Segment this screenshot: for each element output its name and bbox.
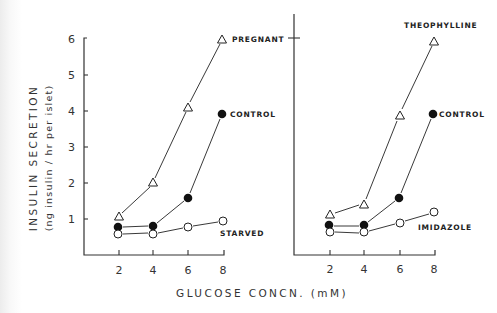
right-xtick-label: 6 [397, 263, 404, 276]
open-circle-marker [396, 219, 404, 227]
left-ytick-label: 5 [68, 69, 75, 82]
series-label-theophylline: THEOPHYLLINE [404, 21, 477, 30]
filled-circle-marker [429, 110, 438, 119]
series-imidazole: IMIDAZOLE [326, 208, 472, 236]
open-triangle-marker [430, 37, 439, 45]
series-control-left: CONTROL [114, 110, 276, 232]
right-panel: 2 4 6 8 THEOPHYLLINE CONTROL [288, 14, 485, 276]
series-label-control: CONTROL [230, 110, 276, 119]
series-starved: STARVED [114, 217, 264, 238]
left-ytick-label: 3 [68, 141, 75, 154]
right-xtick-label: 4 [361, 263, 368, 276]
series-label-starved: STARVED [220, 229, 264, 238]
open-circle-marker [114, 230, 122, 238]
filled-circle-marker [218, 110, 227, 119]
left-panel: 1 2 3 4 5 6 2 4 6 8 PREGNANT C [68, 33, 285, 277]
series-label-control: CONTROL [439, 110, 485, 119]
filled-circle-marker [149, 222, 158, 231]
open-circle-marker [326, 228, 334, 236]
right-xtick-label: 8 [431, 263, 438, 276]
open-circle-marker [430, 208, 438, 216]
series-theophylline: THEOPHYLLINE [326, 21, 478, 218]
left-xtick-label: 8 [220, 264, 227, 277]
left-xtick-label: 4 [150, 264, 157, 277]
open-circle-marker [360, 228, 368, 236]
series-pregnant: PREGNANT [115, 35, 285, 220]
y-axis-title-main: INSULIN SECRETION [27, 85, 39, 231]
series-control-right: CONTROL [325, 110, 485, 230]
open-circle-marker [219, 217, 227, 225]
chart-svg: INSULIN SECRETION (ng insulin / hr per i… [0, 0, 497, 313]
left-xtick-label: 2 [116, 264, 123, 277]
left-ytick-label: 1 [68, 213, 75, 226]
open-triangle-marker [184, 103, 193, 111]
left-ytick-label: 6 [68, 33, 75, 46]
y-axis-title-sub: (ng insulin / hr per islet) [43, 85, 54, 232]
left-ytick-label: 2 [68, 177, 75, 190]
left-ytick-label: 4 [68, 105, 75, 118]
filled-circle-marker [395, 194, 404, 203]
x-axis-title: GLUCOSE CONCN. (mM) [176, 287, 348, 299]
open-triangle-marker [115, 212, 124, 220]
left-xtick-label: 6 [185, 264, 192, 277]
open-triangle-marker [396, 111, 405, 119]
figure: INSULIN SECRETION (ng insulin / hr per i… [0, 0, 497, 313]
y-axis-title: INSULIN SECRETION [27, 85, 39, 231]
y-axis-subtitle: (ng insulin / hr per islet) [43, 85, 54, 232]
open-circle-marker [184, 223, 192, 231]
open-triangle-marker [360, 200, 369, 208]
open-triangle-marker [326, 210, 335, 218]
right-xtick-label: 2 [327, 263, 334, 276]
series-label-pregnant: PREGNANT [232, 35, 285, 44]
series-label-imidazole: IMIDAZOLE [418, 223, 472, 232]
filled-circle-marker [184, 194, 193, 203]
open-circle-marker [149, 230, 157, 238]
open-triangle-marker [218, 35, 227, 43]
open-triangle-marker [149, 178, 158, 186]
